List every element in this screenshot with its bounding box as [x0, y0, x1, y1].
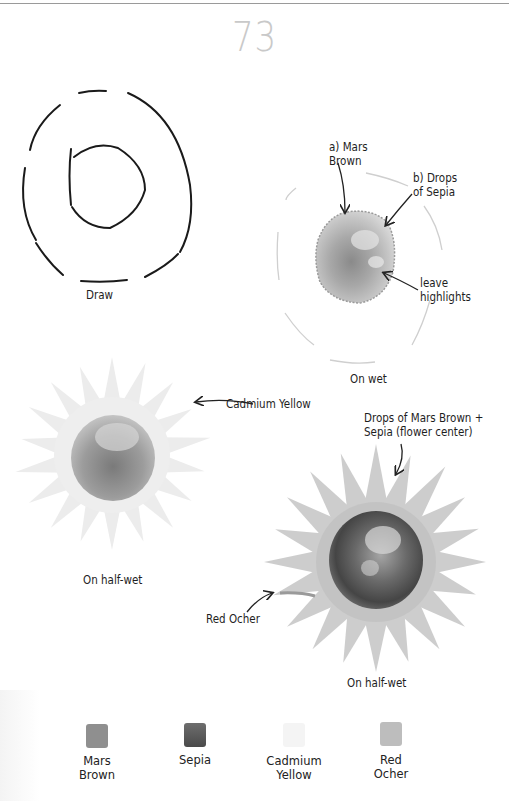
caption-on-wet: On wet: [350, 372, 387, 386]
swatch-mars-brown: [86, 724, 108, 748]
swatch-label-mars-brown: MarsBrown: [57, 754, 137, 782]
annotation-mars-brown: a) Mars Brown: [329, 140, 368, 168]
draw-sketch: [23, 91, 191, 282]
annotation-leave-highlights: leave highlights: [420, 276, 471, 304]
annotation-cadmium-yellow: Cadmium Yellow: [226, 397, 311, 411]
caption-draw: Draw: [86, 288, 113, 302]
swatch-label-red-ocher: RedOcher: [351, 753, 431, 781]
annotation-flower-center: Drops of Mars Brown + Sepia (flower cent…: [364, 411, 483, 439]
annotation-red-ocher: Red Ocher: [206, 612, 260, 626]
half-wet-flower-2: [264, 444, 486, 672]
annotation-drops-sepia: b) Drops of Sepia: [413, 171, 457, 199]
caption-half-wet-2: On half-wet: [347, 676, 406, 690]
edge-wash: [0, 690, 40, 801]
swatch-sepia: [184, 723, 206, 747]
swatch-label-sepia: Sepia: [155, 753, 235, 767]
swatch-cadmium-yellow: [283, 723, 305, 747]
on-wet-blob: [316, 211, 395, 303]
caption-half-wet-1: On half-wet: [83, 573, 142, 587]
swatch-label-cadmium-yellow: CadmiumYellow: [254, 754, 334, 782]
swatch-red-ocher: [380, 722, 402, 746]
half-wet-flower-1: [14, 357, 212, 550]
